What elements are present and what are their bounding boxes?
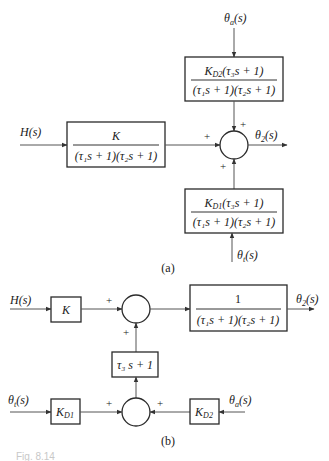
sum-dist-sign-right: + <box>157 397 163 409</box>
gain-k-block: K <box>51 297 81 322</box>
sum-sign-top: + <box>240 118 246 130</box>
svg-text:KD1(τ₃s + 1): KD1(τ₃s + 1) <box>203 196 263 211</box>
plant-transfer-block-b: 1 (τ₁s + 1)(τ₂s + 1) <box>190 285 287 331</box>
lead-block: τ₃ s + 1 <box>112 352 158 377</box>
h-input-label: H(s) <box>19 125 41 139</box>
sum-sign-bottom: + <box>220 160 226 172</box>
svg-text:KD2(τ₃s + 1): KD2(τ₃s + 1) <box>203 64 263 79</box>
svg-text:K: K <box>61 303 71 317</box>
summing-junction-b-main <box>122 295 150 323</box>
h-input-label-b: H(s) <box>9 293 31 307</box>
theta-2-output-label-b: θ2(s) <box>296 292 319 308</box>
theta-a-input-label: θa(s) <box>224 11 247 27</box>
summing-junction-a <box>220 131 248 159</box>
sum-b-sign-bottom: + <box>123 326 129 338</box>
kd1-transfer-block: KD1(τ₃s + 1) (τ₁s + 1)(τ₂s + 1) <box>185 189 283 233</box>
svg-text:K: K <box>111 129 121 143</box>
diagram-a: θa(s) KD2(τ₃s + 1) (τ₁s + 1)(τ₂s + 1) + … <box>19 11 287 275</box>
svg-text:τ₃ s + 1: τ₃ s + 1 <box>117 358 153 372</box>
svg-text:(τ₁s + 1)(τ₂s + 1): (τ₁s + 1)(τ₂s + 1) <box>75 149 157 163</box>
svg-text:(τ₁s + 1)(τ₂s + 1): (τ₁s + 1)(τ₂s + 1) <box>197 313 279 327</box>
summing-junction-b-dist <box>122 398 150 426</box>
sum-dist-sign-left: + <box>106 397 112 409</box>
theta-2-output-label-a: θ2(s) <box>255 128 278 144</box>
figure-caption: Fig. 8.14 <box>16 451 55 461</box>
theta-t-input-label-a: θt(s) <box>237 248 258 264</box>
svg-text:1: 1 <box>235 292 241 306</box>
diagram-b: H(s) K + 1 (τ₁s + 1)(τ₂s + 1) θ2(s) + τ₃… <box>8 285 319 448</box>
kd2-transfer-block: KD2(τ₃s + 1) (τ₁s + 1)(τ₂s + 1) <box>185 57 283 101</box>
kd2-block: KD2 <box>190 399 219 424</box>
svg-text:(τ₁s + 1)(τ₂s + 1): (τ₁s + 1)(τ₂s + 1) <box>193 83 275 97</box>
kd1-block: KD1 <box>51 399 80 424</box>
svg-text:(τ₁s + 1)(τ₂s + 1): (τ₁s + 1)(τ₂s + 1) <box>193 215 275 229</box>
caption-a: (a) <box>161 261 174 275</box>
sum-sign-left: + <box>204 130 210 142</box>
plant-transfer-block: K (τ₁s + 1)(τ₂s + 1) <box>67 122 165 167</box>
block-diagram-figure: θa(s) KD2(τ₃s + 1) (τ₁s + 1)(τ₂s + 1) + … <box>0 0 329 461</box>
theta-a-input-label-b: θa(s) <box>229 393 252 409</box>
sum-b-sign-left: + <box>106 294 112 306</box>
theta-t-input-label-b: θt(s) <box>8 393 29 409</box>
caption-b: (b) <box>161 434 175 448</box>
